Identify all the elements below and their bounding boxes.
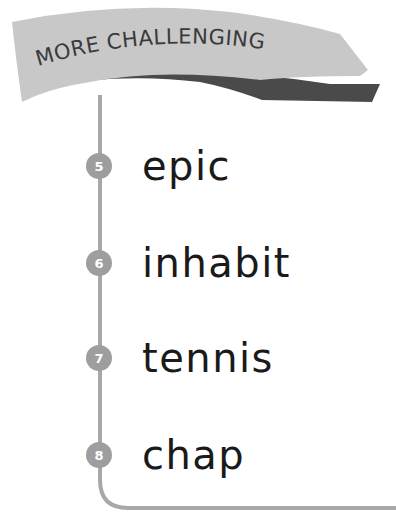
spelling-word: tennis — [142, 338, 274, 378]
spelling-word: inhabit — [142, 243, 291, 283]
spelling-word: epic — [142, 146, 231, 186]
number-badge: 5 — [86, 153, 112, 179]
list-item: 6 inhabit — [86, 243, 291, 283]
list-item: 5 epic — [86, 146, 231, 186]
number-badge: 6 — [86, 250, 112, 276]
spelling-word: chap — [142, 435, 245, 475]
number-badge: 8 — [86, 442, 112, 468]
number-badge: 7 — [86, 345, 112, 371]
banner-title: MORE CHALLENGING — [0, 0, 396, 110]
list-item: 7 tennis — [86, 338, 274, 378]
list-item: 8 chap — [86, 435, 245, 475]
svg-text:MORE CHALLENGING: MORE CHALLENGING — [33, 24, 267, 70]
